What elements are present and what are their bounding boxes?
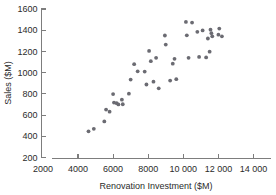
data-point bbox=[197, 55, 201, 59]
y-tick-label: 1000 bbox=[17, 68, 37, 78]
data-point bbox=[147, 49, 151, 53]
data-point bbox=[121, 102, 125, 106]
data-point bbox=[108, 110, 112, 114]
x-axis-tick-labels: 200040006000800010 00012 00014 000 bbox=[33, 164, 267, 174]
data-point bbox=[201, 29, 205, 33]
data-point bbox=[163, 34, 167, 38]
data-point bbox=[184, 20, 188, 24]
data-point bbox=[210, 34, 214, 38]
data-point bbox=[120, 98, 124, 102]
x-tick-label: 4000 bbox=[68, 164, 88, 174]
data-point bbox=[190, 21, 194, 25]
y-tick-label: 800 bbox=[22, 89, 37, 99]
y-axis: 2004006008001000120014001600 bbox=[17, 4, 46, 163]
data-point bbox=[157, 86, 161, 90]
data-point bbox=[154, 56, 158, 60]
y-tick-label: 1400 bbox=[17, 25, 37, 35]
data-point bbox=[132, 62, 136, 66]
x-tick-label: 2000 bbox=[33, 164, 53, 174]
data-point bbox=[206, 37, 210, 41]
data-point bbox=[152, 80, 156, 84]
data-point bbox=[220, 34, 224, 38]
scatter-chart: 2004006008001000120014001600 20004000600… bbox=[0, 0, 276, 195]
data-point bbox=[127, 92, 131, 96]
data-point bbox=[209, 28, 213, 32]
data-point bbox=[145, 83, 149, 87]
data-point bbox=[136, 69, 140, 73]
data-points bbox=[87, 20, 224, 133]
data-point bbox=[187, 56, 191, 60]
data-point bbox=[171, 62, 175, 66]
y-axis-tick-labels: 2004006008001000120014001600 bbox=[17, 4, 37, 163]
data-point bbox=[111, 92, 115, 96]
data-point bbox=[195, 30, 199, 34]
data-point bbox=[129, 78, 133, 82]
data-point bbox=[143, 70, 147, 74]
data-point bbox=[102, 120, 106, 124]
x-tick-label: 6000 bbox=[103, 164, 123, 174]
x-tick-label: 14 000 bbox=[240, 164, 268, 174]
x-tick-label: 12 000 bbox=[205, 164, 233, 174]
data-point bbox=[104, 108, 108, 112]
y-axis-title: Sales ($M) bbox=[3, 61, 13, 105]
x-axis-ticks bbox=[78, 154, 254, 159]
x-axis-title: Renovation Investment ($M) bbox=[99, 181, 212, 191]
data-point bbox=[208, 50, 212, 54]
data-point bbox=[116, 103, 120, 107]
data-point bbox=[92, 127, 96, 131]
y-tick-label: 400 bbox=[22, 131, 37, 141]
x-tick-label: 10 000 bbox=[170, 164, 198, 174]
data-point bbox=[149, 59, 153, 63]
data-point bbox=[204, 56, 208, 60]
y-tick-label: 600 bbox=[22, 110, 37, 120]
data-point bbox=[174, 77, 178, 81]
data-point bbox=[87, 129, 91, 133]
x-tick-label: 8000 bbox=[138, 164, 158, 174]
plot-area: 2004006008001000120014001600 20004000600… bbox=[0, 0, 276, 195]
y-tick-label: 1200 bbox=[17, 47, 37, 57]
data-point bbox=[168, 79, 172, 83]
data-point bbox=[217, 27, 221, 31]
data-point bbox=[164, 43, 168, 47]
y-tick-label: 200 bbox=[22, 153, 37, 163]
data-point bbox=[217, 33, 221, 37]
data-point bbox=[209, 31, 213, 35]
x-axis: 200040006000800010 00012 00014 000 bbox=[33, 154, 271, 174]
y-tick-label: 1600 bbox=[17, 4, 37, 14]
data-point bbox=[185, 33, 189, 37]
y-axis-ticks bbox=[42, 9, 47, 158]
data-point bbox=[173, 57, 177, 61]
